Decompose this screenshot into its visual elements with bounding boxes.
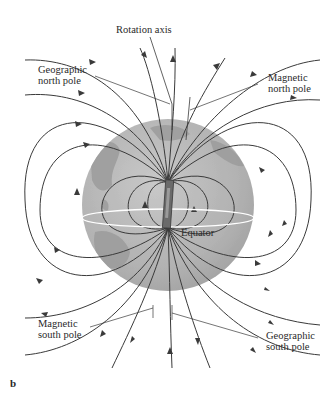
label-rotation-axis: Rotation axis (116, 24, 172, 35)
label-line: north pole (268, 83, 311, 94)
label-line: Magnetic (268, 72, 311, 83)
label-line: south pole (266, 341, 315, 352)
label-equator: Equator (181, 227, 214, 238)
panel-letter: b (10, 378, 16, 389)
label-geographic-north-pole: Geographic north pole (38, 64, 87, 86)
label-magnetic-north-pole: Magnetic north pole (268, 72, 311, 94)
label-line: south pole (38, 329, 81, 340)
label-line: north pole (38, 75, 87, 86)
label-geographic-south-pole: Geographic south pole (266, 330, 315, 352)
rotation-axis-line (150, 37, 172, 104)
label-line: Geographic (266, 330, 315, 341)
label-line: Magnetic (38, 318, 81, 329)
label-line: Geographic (38, 64, 87, 75)
label-magnetic-south-pole: Magnetic south pole (38, 318, 81, 340)
